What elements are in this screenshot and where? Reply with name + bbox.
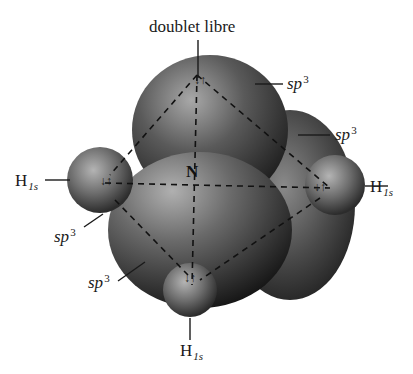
sp3-label-left: sp3 bbox=[54, 228, 76, 245]
nitrogen-label: N bbox=[186, 163, 198, 180]
spin-pair-icon: ↓↑ bbox=[184, 272, 196, 284]
sp3-label-top-right: sp3 bbox=[287, 75, 309, 92]
ammonia-sp3-diagram: ↓↑ ↓↑ ↓↑ ↓↑ doublet libre sp3 sp3 sp3 sp… bbox=[0, 0, 413, 374]
orbital-illustration bbox=[0, 0, 413, 374]
hydrogen-label-right: H1s bbox=[370, 178, 393, 195]
sp3-label-right: sp3 bbox=[335, 126, 357, 143]
spin-pair-icon: ↓↑ bbox=[314, 181, 326, 193]
hydrogen-label-bottom: H1s bbox=[180, 342, 203, 359]
hydrogen-label-left: H1s bbox=[15, 172, 38, 189]
sp3-label-bottom-left: sp3 bbox=[88, 274, 110, 291]
spin-pair-icon: ↓↑ bbox=[194, 74, 206, 86]
spin-pair-icon: ↓↑ bbox=[100, 175, 112, 187]
lone-pair-label: doublet libre bbox=[149, 18, 235, 35]
